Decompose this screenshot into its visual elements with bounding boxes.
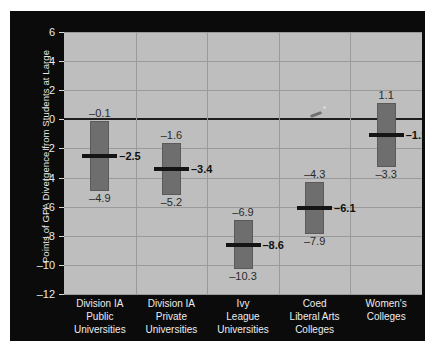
x-axis-labels: Division IAPublicUniversitiesDivision IA… — [64, 297, 422, 341]
x-axis-label: CoedLiberal ArtsColleges — [290, 297, 340, 336]
x-axis-label-line: Division IA — [146, 297, 198, 310]
x-axis-label: Division IAPrivateUniversities — [146, 297, 198, 336]
grid-line-y-2 — [64, 90, 422, 91]
y-tick-label-2: 2 — [49, 84, 55, 96]
y-tick-label--12: –12 — [37, 288, 55, 300]
grid-line-x-3 — [279, 32, 280, 294]
zero-reference-line — [64, 118, 422, 120]
y-tick-label--2: –2 — [43, 142, 55, 154]
value-label-high: 1.1 — [379, 89, 394, 101]
x-axis-label-line: Women's — [366, 297, 407, 310]
value-label-median: –1.1 — [406, 129, 425, 141]
value-label-low: –10.3 — [229, 270, 257, 282]
median-marker — [82, 154, 117, 158]
grid-line-y--4 — [64, 178, 422, 179]
median-marker — [369, 133, 404, 137]
value-label-median: –8.6 — [263, 239, 284, 251]
x-axis-label: Division IAPublicUniversities — [74, 297, 126, 336]
y-tick-label-4: 4 — [49, 55, 55, 67]
value-label-low: –7.9 — [304, 235, 325, 247]
value-label-median: –2.5 — [119, 150, 140, 162]
x-axis-label: Women'sColleges — [366, 297, 407, 323]
value-label-low: –4.9 — [89, 192, 110, 204]
x-axis-label-line: Liberal Arts — [290, 310, 340, 323]
value-label-low: –3.3 — [375, 168, 396, 180]
grid-line-y--2 — [64, 148, 422, 149]
x-axis-label-line: League — [217, 310, 269, 323]
median-marker — [154, 167, 189, 171]
value-label-high: –4.3 — [304, 168, 325, 180]
x-axis-label-line: Universities — [74, 323, 126, 336]
grid-line-x-1 — [136, 32, 137, 294]
value-label-high: –0.1 — [89, 107, 110, 119]
x-axis-label-line: Universities — [217, 323, 269, 336]
value-label-median: –3.4 — [191, 163, 212, 175]
x-axis-label-line: Colleges — [366, 310, 407, 323]
value-label-low: –5.2 — [161, 196, 182, 208]
y-tick-label--4: –4 — [43, 172, 55, 184]
chart-figure: Points of GPA Divergence from Students a… — [10, 11, 425, 341]
x-axis-label: IvyLeagueUniversities — [217, 297, 269, 336]
x-axis-label-line: Ivy — [217, 297, 269, 310]
grid-line-y--12 — [64, 294, 422, 295]
x-axis-label-line: Colleges — [290, 323, 340, 336]
y-tick-label--6: –6 — [43, 201, 55, 213]
value-label-high: –1.6 — [161, 129, 182, 141]
y-tick-label--10: –10 — [37, 259, 55, 271]
plot-area: –0.1–4.9–2.5–1.6–5.2–3.4–6.9–10.3–8.6–4.… — [64, 32, 422, 294]
y-tick-label-6: 6 — [49, 26, 55, 38]
y-tick-label--8: –8 — [43, 230, 55, 242]
value-label-high: –6.9 — [232, 206, 253, 218]
y-tick-label-0: 0 — [49, 113, 55, 125]
y-axis: 6420–2–4–6–8–10–12 — [10, 32, 64, 294]
x-axis-label-line: Coed — [290, 297, 340, 310]
grid-line-y-4 — [64, 61, 422, 62]
x-axis-label-line: Universities — [146, 323, 198, 336]
median-marker — [226, 243, 261, 247]
x-axis-label-line: Public — [74, 310, 126, 323]
median-marker — [297, 206, 332, 210]
scan-artifact-dot — [323, 106, 326, 109]
x-axis-label-line: Private — [146, 310, 198, 323]
grid-line-x-4 — [350, 32, 351, 294]
x-axis-label-line: Division IA — [74, 297, 126, 310]
value-label-median: –6.1 — [334, 202, 355, 214]
scan-artifact-streak — [310, 111, 322, 118]
grid-line-y-6 — [64, 32, 422, 33]
